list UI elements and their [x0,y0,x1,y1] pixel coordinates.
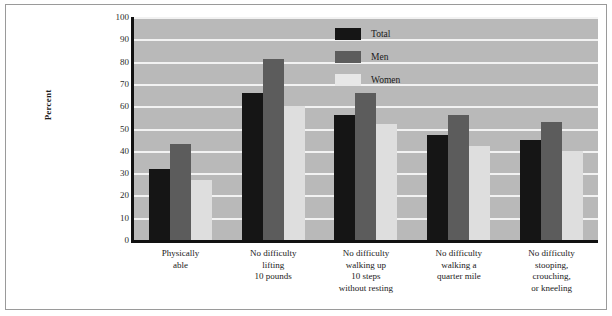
y-axis-title: Percent [43,35,53,175]
x-category-label-line: able [136,260,225,272]
x-category-label-line: or kneeling [507,283,596,295]
x-category-label: No difficultylifting10 pounds [227,248,320,294]
legend-swatch-men [335,51,361,63]
y-tick-label: 20 [105,190,129,200]
x-category-label: No difficultystooping,crouching,or kneel… [505,248,598,294]
bar-men [541,122,562,240]
x-category-label: No difficultywalking aquarter mile [412,248,505,294]
bar-women [284,106,305,240]
y-tick-label: 0 [105,235,129,245]
y-tick-label: 100 [105,12,129,22]
bar-women [191,180,212,240]
bar-total [149,169,170,240]
x-category-label-line: 10 steps [322,271,411,283]
bar-group [505,17,598,240]
legend-item: Total [335,22,463,45]
bar-total [427,135,448,240]
x-category-label-line: lifting [229,260,318,272]
bar-total [242,93,263,240]
bar-women [562,151,583,240]
bar-women [376,124,397,240]
bar-men [355,93,376,240]
y-tick-label: 60 [105,101,129,111]
y-tick-label: 30 [105,168,129,178]
bar-chart-figure: Percent 1009080706050403020100 TotalMenW… [0,0,612,316]
x-category-label-line: No difficulty [414,248,503,260]
x-category-label-line: walking a [414,260,503,272]
legend-swatch-women [335,74,361,86]
x-category-label-line: crouching, [507,271,596,283]
bar-total [520,140,541,240]
bar-women [469,146,490,240]
x-category-label-line: Physically [136,248,225,260]
x-category-label: Physicallyable [134,248,227,294]
bar-men [263,59,284,240]
bar-men [448,115,469,240]
x-category-label-line: walking up [322,260,411,272]
bar-group [134,17,227,240]
x-category-label-line: quarter mile [414,271,503,283]
y-tick-label: 50 [105,124,129,134]
bar-men [170,144,191,240]
legend-item: Men [335,45,463,68]
y-tick-label: 10 [105,213,129,223]
legend-item: Women [335,68,463,91]
legend-label: Total [371,29,390,39]
y-tick-label: 80 [105,57,129,67]
bar-total [334,115,355,240]
x-category-label-line: No difficulty [229,248,318,260]
x-category-label-line: stooping, [507,260,596,272]
y-tick-label: 40 [105,146,129,156]
y-axis-tick-labels: 1009080706050403020100 [105,17,129,240]
x-axis-category-labels: PhysicallyableNo difficultylifting10 pou… [134,248,598,294]
bar-group [227,17,320,240]
x-category-label-line: 10 pounds [229,271,318,283]
x-category-label-line: No difficulty [507,248,596,260]
legend-swatch-total [335,28,361,40]
chart-legend: TotalMenWomen [335,22,463,91]
legend-label: Men [371,52,388,62]
x-category-label: No difficultywalking up10 stepswithout r… [320,248,413,294]
legend-label: Women [371,75,400,85]
x-category-label-line: No difficulty [322,248,411,260]
x-category-label-line: without resting [322,283,411,295]
y-tick-label: 90 [105,34,129,44]
y-tick-label: 70 [105,79,129,89]
